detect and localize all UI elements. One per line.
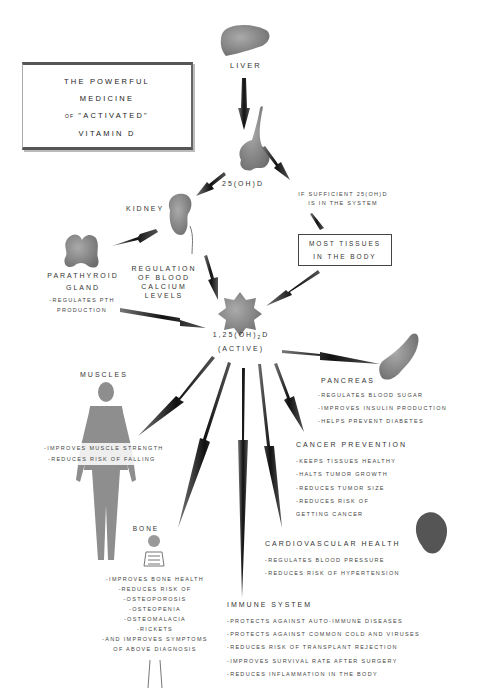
regulation-text: REGULATION OF BLOOD CALCIUM LEVELS bbox=[128, 264, 200, 300]
pancreas-label: PANCREAS bbox=[321, 377, 375, 384]
pancreas-items: -REGULATES BLOOD SUGAR -IMPROVES INSULIN… bbox=[318, 389, 447, 428]
most-tissues-line-1: MOST TISSUES bbox=[299, 237, 391, 250]
regulation-line-3: CALCIUM bbox=[128, 282, 200, 291]
parathyroid-line-1: PARATHYROID bbox=[42, 270, 124, 282]
parathyroid-text: PARATHYROID GLAND bbox=[42, 270, 124, 294]
arrow-active-to-muscles bbox=[138, 356, 215, 436]
immune-item: -IMPROVES SURVIVAL RATE AFTER SURGERY bbox=[227, 655, 420, 668]
arrow-kidney-to-parathyroid bbox=[112, 229, 158, 246]
arrow-tissues-to-active bbox=[266, 270, 320, 306]
arrow-note-to-tissues bbox=[310, 213, 324, 230]
title-line-3-main: "ACTIVATED" bbox=[78, 111, 149, 120]
cancer-item: -REDUCES TUMOR SIZE bbox=[296, 482, 396, 495]
title-box: THE POWERFUL MEDICINE OF "ACTIVATED" VIT… bbox=[22, 62, 193, 150]
cardio-label: CARDIOVASCULAR HEALTH bbox=[265, 540, 400, 547]
parathyroid-item-2: PRODUCTION bbox=[40, 305, 124, 315]
kidney-label: KIDNEY bbox=[126, 205, 164, 212]
title-line-2: MEDICINE bbox=[23, 90, 191, 107]
cardio-item: -REGULATES BLOOD PRESSURE bbox=[265, 554, 400, 567]
cancer-item: -HALTS TUMOR GROWTH bbox=[296, 468, 396, 481]
immune-item: -REDUCES INFLAMMATION IN THE BODY bbox=[227, 668, 420, 681]
arrow-active-to-pancreas bbox=[282, 350, 380, 364]
arrow-parathyroid-to-active bbox=[120, 308, 206, 328]
regulation-line-1: REGULATION bbox=[128, 264, 200, 273]
liver-icon bbox=[221, 25, 270, 56]
most-tissues-box: MOST TISSUES IN THE BODY bbox=[298, 234, 392, 266]
pancreas-icon bbox=[379, 334, 418, 380]
bone-item: -RICKETS bbox=[90, 624, 220, 634]
sufficient-note-line-2: IS IN THE SYSTEM bbox=[284, 200, 402, 206]
active-formula-suffix: D bbox=[262, 331, 269, 338]
muscles-item: -IMPROVES MUSCLE STRENGTH bbox=[44, 443, 164, 454]
cardio-items: -REGULATES BLOOD PRESSURE -REDUCES RISK … bbox=[265, 554, 400, 581]
liver-label: LIVER bbox=[230, 61, 262, 70]
arrow-liver-to-25ohd bbox=[238, 78, 250, 130]
active-label-line-1: 1,25(OH)2D bbox=[205, 331, 277, 340]
parathyroid-item-1: -REGULATES PTH bbox=[40, 295, 124, 305]
bone-item: -OSTEOPOROSIS bbox=[90, 594, 220, 604]
cancer-item: -KEEPS TISSUES HEALTHY bbox=[296, 455, 396, 468]
most-tissues-line-2: IN THE BODY bbox=[299, 250, 391, 263]
title-line-3-prefix: OF bbox=[65, 113, 74, 119]
bone-item: -OSTEOPENIA bbox=[90, 604, 220, 614]
sufficient-note-line-1: IF SUFFICIENT 25(OH)D bbox=[284, 191, 402, 197]
arrow-kidney-to-active bbox=[204, 255, 218, 300]
heart-icon bbox=[416, 512, 447, 553]
arrow-active-to-cardio bbox=[258, 364, 282, 528]
muscles-item: -REDUCES RISK OF FALLING bbox=[44, 454, 164, 465]
cancer-item: -REDUCES RISK OF bbox=[296, 495, 396, 508]
immune-items: -PROTECTS AGAINST AUTO-IMMUNE DISEASES -… bbox=[227, 615, 420, 681]
active-formula: 1,25(OH) bbox=[213, 331, 258, 338]
active-vitamin-star-icon bbox=[218, 292, 262, 336]
arrow-active-to-cancer bbox=[274, 363, 304, 432]
title-line-3: OF "ACTIVATED" bbox=[23, 107, 191, 125]
arrow-active-to-immune bbox=[238, 368, 248, 598]
pancreas-item: -IMPROVES INSULIN PRODUCTION bbox=[318, 402, 447, 415]
parathyroid-icon bbox=[64, 234, 98, 267]
bone-item: -REDUCES RISK OF bbox=[90, 584, 220, 594]
bone-item: -IMPROVES BONE HEALTH bbox=[90, 574, 220, 584]
active-label-line-2: (ACTIVE) bbox=[205, 345, 277, 352]
kidney-icon bbox=[169, 194, 192, 235]
immune-item: -PROTECTS AGAINST AUTO-IMMUNE DISEASES bbox=[227, 615, 420, 628]
arrow-active-to-bone bbox=[178, 362, 231, 528]
pancreas-item: -REGULATES BLOOD SUGAR bbox=[318, 389, 447, 402]
cancer-items: -KEEPS TISSUES HEALTHY -HALTS TUMOR GROW… bbox=[296, 455, 396, 521]
immune-item: -REDUCES RISK OF TRANSPLANT REJECTION bbox=[227, 641, 420, 654]
muscles-items: -IMPROVES MUSCLE STRENGTH -REDUCES RISK … bbox=[42, 443, 166, 465]
immune-label: IMMUNE SYSTEM bbox=[227, 601, 312, 608]
title-line-4: VITAMIN D bbox=[23, 125, 191, 142]
cardio-item: -REDUCES RISK OF HYPERTENSION bbox=[265, 567, 400, 580]
pancreas-item: -HELPS PREVENT DIABETES bbox=[318, 415, 447, 428]
bone-item: -OSTEOMALACIA bbox=[90, 614, 220, 624]
title-line-1: THE POWERFUL bbox=[23, 73, 191, 90]
bone-item: OF ABOVE DIAGNOSIS bbox=[90, 644, 220, 654]
regulation-line-2: OF BLOOD bbox=[128, 273, 200, 282]
cancer-item: GETTING CANCER bbox=[296, 508, 396, 521]
muscles-label: MUSCLES bbox=[80, 371, 128, 378]
bone-items: -IMPROVES BONE HEALTH -REDUCES RISK OF -… bbox=[90, 574, 220, 654]
regulation-line-4: LEVELS bbox=[128, 291, 200, 300]
calcidiol-label: 25(OH)D bbox=[222, 180, 264, 187]
cancer-label: CANCER PREVENTION bbox=[296, 441, 407, 448]
parathyroid-line-2: GLAND bbox=[42, 282, 124, 294]
bone-item: -AND IMPROVES SYMPTOMS bbox=[90, 634, 220, 644]
bone-label: BONE bbox=[128, 525, 164, 532]
human-muscle-figure-icon bbox=[76, 382, 136, 560]
parathyroid-items: -REGULATES PTH PRODUCTION bbox=[40, 295, 124, 315]
immune-item: -PROTECTS AGAINST COMMON COLD AND VIRUSE… bbox=[227, 628, 420, 641]
